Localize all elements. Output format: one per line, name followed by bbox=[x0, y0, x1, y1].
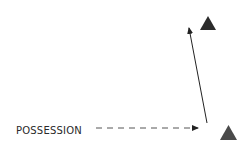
possession-label: POSSESSION bbox=[16, 125, 82, 137]
pass-arrow bbox=[189, 28, 207, 123]
player-marker-top-icon bbox=[200, 16, 216, 30]
player-marker-bottom-icon bbox=[220, 125, 237, 140]
